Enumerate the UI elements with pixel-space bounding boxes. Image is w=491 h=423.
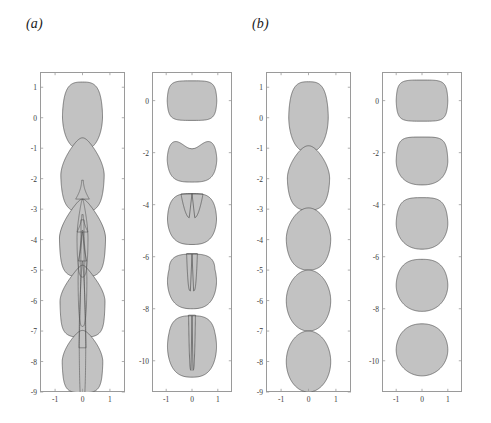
y-tick-label: -8 — [143, 304, 149, 313]
x-tick-label: 0 — [190, 395, 194, 404]
figure-root: (a) (b) 10-1-2-3-4-5-6-7-8-9-101 0-2-4-6… — [0, 0, 491, 423]
drop-silhouette — [396, 137, 448, 185]
y-tick-label: 0 — [33, 113, 37, 122]
y-tick-label: -2 — [31, 174, 37, 183]
x-tick-label: -1 — [278, 395, 284, 404]
y-tick-label: -4 — [31, 235, 37, 244]
y-tick-label: -3 — [257, 205, 263, 214]
x-tick-label: -1 — [393, 395, 399, 404]
drop-silhouette — [167, 254, 216, 309]
drop-silhouette — [287, 146, 329, 211]
y-tick-label: -7 — [257, 327, 263, 336]
subplot-panel-a-left: 10-1-2-3-4-5-6-7-8-9-101 — [40, 72, 125, 392]
y-tick-label: -10 — [369, 356, 379, 365]
y-tick-label: -2 — [143, 148, 149, 157]
drop-silhouette — [167, 194, 216, 245]
drop-silhouette — [286, 270, 330, 331]
subplot-panel-b-right: 0-2-4-6-8-10-101 — [382, 72, 462, 392]
drop-silhouette — [289, 82, 328, 153]
y-tick-label: -9 — [257, 388, 263, 397]
y-tick-label: -3 — [31, 205, 37, 214]
x-tick-label: 1 — [446, 395, 450, 404]
y-tick-label: 0 — [375, 96, 379, 105]
interface-curves — [167, 81, 217, 377]
y-tick-label: -10 — [139, 356, 149, 365]
y-tick-label: -2 — [257, 174, 263, 183]
drop-silhouette — [286, 331, 330, 392]
panel-label-b: (b) — [252, 16, 269, 32]
y-tick-label: -4 — [257, 235, 263, 244]
panel-label-a: (a) — [26, 16, 43, 32]
x-tick-label: 0 — [81, 395, 85, 404]
x-tick-label: -1 — [163, 395, 169, 404]
y-tick-label: -6 — [373, 252, 379, 261]
x-tick-label: 1 — [334, 395, 338, 404]
y-tick-label: -6 — [143, 252, 149, 261]
x-tick-label: 1 — [108, 395, 112, 404]
drop-silhouette — [167, 81, 217, 121]
y-tick-label: -8 — [31, 357, 37, 366]
drop-silhouette — [286, 208, 330, 270]
y-tick-label: -4 — [143, 200, 149, 209]
plot-area — [40, 72, 125, 392]
y-tick-label: 1 — [259, 83, 263, 92]
drop-silhouette — [396, 80, 448, 121]
x-tick-label: 0 — [307, 395, 311, 404]
plot-area — [266, 72, 351, 392]
y-tick-label: -1 — [257, 144, 263, 153]
y-tick-label: -8 — [257, 357, 263, 366]
drop-silhouette — [62, 330, 103, 392]
y-tick-label: -9 — [31, 388, 37, 397]
y-tick-label: 0 — [259, 113, 263, 122]
interface-curves — [286, 82, 330, 392]
y-tick-label: 0 — [145, 96, 149, 105]
interface-curves — [59, 82, 105, 407]
drop-silhouette — [167, 315, 216, 377]
y-tick-label: -6 — [31, 296, 37, 305]
y-tick-label: -8 — [373, 304, 379, 313]
x-tick-label: 1 — [216, 395, 220, 404]
y-tick-label: -1 — [31, 144, 37, 153]
y-tick-label: -2 — [373, 148, 379, 157]
y-tick-label: 1 — [33, 83, 37, 92]
x-tick-label: 0 — [420, 395, 424, 404]
y-tick-label: -4 — [373, 200, 379, 209]
x-tick-label: -1 — [52, 395, 58, 404]
y-tick-label: -5 — [31, 266, 37, 275]
subplot-panel-b-left: 10-1-2-3-4-5-6-7-8-9-101 — [266, 72, 351, 392]
plot-area — [382, 72, 462, 392]
y-tick-label: -6 — [257, 296, 263, 305]
drop-silhouette — [167, 142, 217, 183]
drop-silhouette — [396, 259, 448, 311]
drop-silhouette — [396, 324, 448, 376]
subplot-panel-a-right: 0-2-4-6-8-10-101 — [152, 72, 232, 392]
y-tick-label: -7 — [31, 327, 37, 336]
plot-area — [152, 72, 232, 392]
interface-curves — [396, 80, 448, 376]
drop-silhouette — [396, 198, 448, 250]
y-tick-label: -5 — [257, 266, 263, 275]
